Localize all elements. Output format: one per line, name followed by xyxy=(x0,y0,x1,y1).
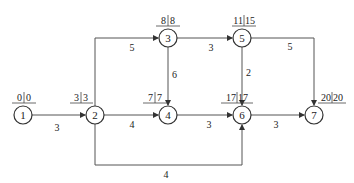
node-id: 2 xyxy=(92,109,98,121)
edge-5-7 xyxy=(251,38,314,105)
svg-text:7: 7 xyxy=(157,92,162,103)
edge-label-2-4: 4 xyxy=(130,119,135,130)
node-id: 6 xyxy=(239,109,245,121)
svg-text:3: 3 xyxy=(83,92,88,103)
edge-label-3-5: 3 xyxy=(209,42,214,53)
edge-label-5-6: 2 xyxy=(246,67,251,78)
network-diagram: 3 5 4 4 3 6 3 2 5 3 1 2 3 4 5 6 7 xyxy=(0,0,354,183)
node-5: 5 xyxy=(233,29,251,47)
svg-text:8: 8 xyxy=(161,15,166,26)
edge-2-6 xyxy=(95,124,242,165)
time-node-4: 7 7 xyxy=(143,92,167,103)
edge-label-4-6: 3 xyxy=(207,119,212,130)
node-3: 3 xyxy=(159,29,177,47)
edge-label-6-7: 3 xyxy=(274,119,279,130)
time-node-5: 11 15 xyxy=(232,15,256,26)
node-id: 4 xyxy=(165,109,171,121)
node-2: 2 xyxy=(86,106,104,124)
svg-text:20: 20 xyxy=(333,92,343,103)
node-4: 4 xyxy=(159,106,177,124)
time-node-6: 17 17 xyxy=(221,92,253,103)
node-1: 1 xyxy=(14,106,32,124)
time-node-1: 0 0 xyxy=(12,92,36,103)
svg-text:0: 0 xyxy=(17,92,22,103)
node-7: 7 xyxy=(305,106,323,124)
edge-label-5-7: 5 xyxy=(288,41,293,52)
svg-text:0: 0 xyxy=(26,92,31,103)
edge-label-2-3: 5 xyxy=(130,42,135,53)
svg-text:17: 17 xyxy=(226,92,236,103)
node-id: 5 xyxy=(239,32,245,44)
svg-text:7: 7 xyxy=(148,92,153,103)
svg-text:15: 15 xyxy=(245,15,255,26)
svg-text:17: 17 xyxy=(238,92,248,103)
time-node-7: 20 20 xyxy=(318,92,346,103)
svg-text:11: 11 xyxy=(233,15,243,26)
time-node-3: 8 8 xyxy=(156,15,180,26)
svg-text:20: 20 xyxy=(321,92,331,103)
svg-text:3: 3 xyxy=(74,92,79,103)
edge-label-1-2: 3 xyxy=(55,122,60,133)
time-node-2: 3 3 xyxy=(70,92,93,103)
node-id: 1 xyxy=(20,109,26,121)
svg-text:8: 8 xyxy=(170,15,175,26)
node-id: 3 xyxy=(165,32,171,44)
edge-label-2-6: 4 xyxy=(164,169,169,180)
node-id: 7 xyxy=(311,109,317,121)
edge-label-3-4: 6 xyxy=(172,69,177,80)
node-6: 6 xyxy=(233,106,251,124)
